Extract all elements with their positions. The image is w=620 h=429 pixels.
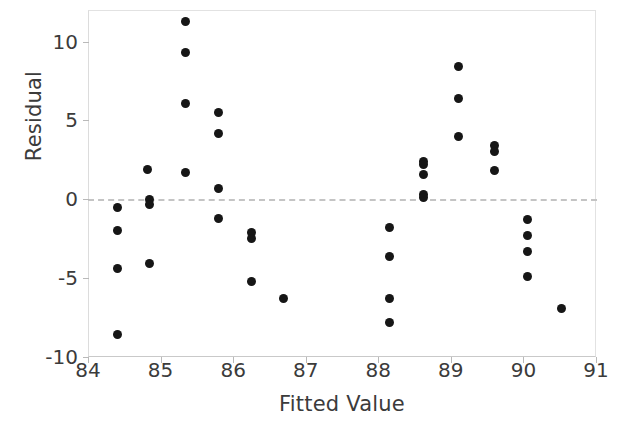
- residual-vs-fitted-scatter-plot: -10-50510 8485868788899091 Residual Fitt…: [0, 0, 620, 429]
- data-point: [419, 170, 428, 179]
- data-point: [113, 264, 122, 273]
- data-point: [454, 94, 463, 103]
- plot-frame: [88, 10, 596, 357]
- data-point: [385, 318, 394, 327]
- data-point: [385, 252, 394, 261]
- data-point: [454, 132, 463, 141]
- y-axis-title: Residual: [22, 26, 46, 206]
- y-tick-mark: [83, 120, 89, 121]
- data-point: [214, 184, 223, 193]
- y-tick-mark: [83, 278, 89, 279]
- x-tick-label: 85: [131, 360, 191, 380]
- data-point: [181, 17, 190, 26]
- x-tick-label: 91: [566, 360, 620, 380]
- data-point: [113, 203, 122, 212]
- data-point: [113, 330, 122, 339]
- x-tick-label: 88: [348, 360, 408, 380]
- x-axis-title: Fitted Value: [88, 392, 596, 416]
- x-tick-label: 89: [421, 360, 481, 380]
- data-point: [454, 62, 463, 71]
- x-tick-label: 86: [203, 360, 263, 380]
- data-point: [523, 215, 532, 224]
- data-point: [214, 129, 223, 138]
- data-point: [385, 294, 394, 303]
- x-tick-label: 90: [493, 360, 553, 380]
- y-tick-mark: [83, 42, 89, 43]
- x-tick-label: 87: [276, 360, 336, 380]
- data-point: [385, 223, 394, 232]
- data-point: [419, 160, 428, 169]
- x-tick-label: 84: [58, 360, 118, 380]
- y-tick-mark: [83, 199, 89, 200]
- y-tick-label: -5: [18, 268, 78, 288]
- data-point: [145, 200, 154, 209]
- data-point: [113, 226, 122, 235]
- data-point: [214, 214, 223, 223]
- data-point: [523, 231, 532, 240]
- data-point: [143, 165, 152, 174]
- zero-reference-line: [88, 199, 597, 201]
- data-point: [419, 193, 428, 202]
- data-point: [247, 234, 256, 243]
- data-point: [557, 304, 566, 313]
- data-point: [247, 277, 256, 286]
- data-point: [523, 247, 532, 256]
- data-point: [523, 272, 532, 281]
